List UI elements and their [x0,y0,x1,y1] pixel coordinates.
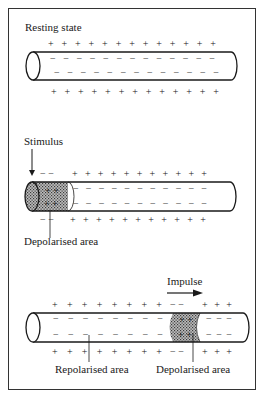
axon-end-cap [26,52,40,80]
impulse-direction-arrow-icon [167,290,203,297]
depolarised-outside-bottom: − − [170,346,184,357]
inside-charge-bottom: − − − − − − − − − − − [73,198,207,209]
callout-depolarised-area: Depolarised area [156,363,230,375]
left-outside-charge-bottom: + + + + + + + + [52,346,162,357]
axon-end-cap [26,313,40,342]
depolarised-outside-top: − − [170,299,184,310]
right-outside-charge-top: + + + [202,299,232,310]
left-outside-charge-top: + + + + + + + + [52,299,162,310]
outside-charge-bottom: + + + + + + + + + + + [70,214,206,225]
right-inside-charge-bottom: − − − [206,329,232,340]
inside-charge-top: − − − − − − − − − − − [73,183,207,194]
outside-charge-top: + + + + + + + + + + + [72,168,207,179]
panel-resting-state: Resting state + + + + + + + + + + + + + … [25,21,237,97]
right-inside-charge-top: − − − [206,313,232,324]
depolarised-inside-top: + + [179,314,193,325]
axon-end-cap [25,182,39,211]
panel-title-impulse: Impulse [167,275,203,287]
outside-charge-top: + + + + + + + + + + + + + [48,38,216,49]
panel-impulse: Impulse + + + + + + + + − − + + + − − − … [26,275,249,375]
inside-charge-top: − − − − − − − − − − − − − [50,53,215,64]
panel-title-stimulus: Stimulus [24,135,63,147]
panel-title-resting: Resting state [25,21,82,33]
right-outside-charge-bottom: + + + [202,346,232,357]
inside-charge-bottom: − − − − − − − − − − − − − [54,67,219,78]
depolarised-outside-bottom: − − [40,214,54,225]
outside-charge-bottom: + + + + + + + + + + + + + [51,86,219,97]
stimulus-arrow-icon [29,149,35,176]
left-inside-charge-bottom: − − − − − − − − [53,329,163,340]
left-inside-charge-top: − − − − − − − − [53,313,163,324]
nerve-impulse-diagram: Resting state + + + + + + + + + + + + + … [0,0,264,399]
callout-depolarised-area: Depolarised area [24,235,98,247]
depolarised-inside-top: + + [45,185,59,196]
depolarised-inside-bottom: + + [178,329,192,340]
panel-stimulus: Stimulus − − + + + + + + + + + + + + + +… [24,135,236,247]
depolarised-outside-top: − − [40,168,54,179]
callout-repolarised-area: Repolarised area [55,363,129,375]
depolarised-inside-bottom: + + [44,198,58,209]
